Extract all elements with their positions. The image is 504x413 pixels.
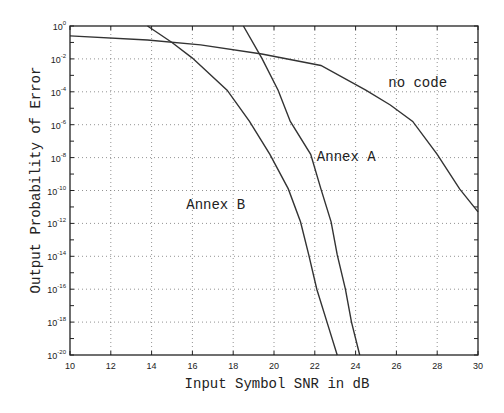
y-tick-label: 10-10 — [47, 185, 66, 197]
y-tick-label: 10-16 — [47, 283, 66, 295]
y-tick-label: 100 — [53, 20, 67, 32]
curve-annotations: no codeAnnex AAnnex B — [186, 75, 447, 213]
x-tick-label: 30 — [473, 361, 483, 371]
y-tick-label: 10-12 — [47, 217, 66, 229]
x-tick-labels: 1012141618202224262830 — [65, 361, 483, 371]
annotation-no-code: no code — [388, 75, 447, 91]
y-tick-label: 10-4 — [51, 86, 67, 98]
annotation-annex-a: Annex A — [317, 149, 376, 165]
y-tick-labels: 10010-210-410-610-810-1010-1210-1410-161… — [47, 20, 66, 361]
x-tick-label: 22 — [310, 361, 320, 371]
y-tick-label: 10-8 — [51, 152, 67, 164]
x-tick-label: 12 — [106, 361, 116, 371]
x-tick-label: 16 — [187, 361, 197, 371]
y-tick-label: 10-20 — [47, 349, 66, 361]
x-tick-label: 18 — [228, 361, 238, 371]
x-tick-label: 14 — [147, 361, 157, 371]
x-tick-label: 24 — [351, 361, 361, 371]
y-axis-title: Output Probability of Error — [28, 67, 44, 294]
y-tick-label: 10-18 — [47, 316, 66, 328]
y-tick-label: 10-14 — [47, 250, 66, 262]
x-tick-label: 28 — [432, 361, 442, 371]
chart: 1012141618202224262830 10010-210-410-610… — [0, 0, 504, 413]
y-tick-label: 10-6 — [51, 119, 67, 131]
x-tick-label: 26 — [391, 361, 401, 371]
annotation-annex-b: Annex B — [186, 197, 245, 213]
x-tick-label: 10 — [65, 361, 75, 371]
x-axis-title: Input Symbol SNR in dB — [185, 376, 370, 392]
x-tick-label: 20 — [269, 361, 279, 371]
y-tick-label: 10-2 — [51, 53, 67, 65]
